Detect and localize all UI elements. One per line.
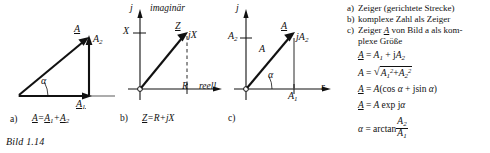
label-imag-component-b: jX — [188, 30, 197, 40]
legend-text-c-post: von Bild a als kom- — [389, 25, 462, 35]
vector-z-head — [177, 32, 188, 41]
vector-a-shaft — [19, 42, 83, 95]
vector-z-shaft — [141, 38, 182, 88]
item-letter-c: c) — [228, 113, 235, 123]
axis-label-r-c: r — [321, 82, 325, 92]
diagram-c: j r A2 A1 A A jA2 α c) — [228, 0, 344, 153]
legend-letter-a: a) — [347, 3, 358, 13]
axis-tick-label-a2-c: A2 — [228, 31, 238, 43]
equation-b: Z=R+jX — [142, 113, 174, 123]
axis-label-j-b: j — [130, 3, 133, 13]
formula-exponential: A = A exp jα — [358, 100, 405, 110]
radical-sign: √ — [374, 65, 380, 77]
label-magnitude-a-c: A — [259, 44, 265, 54]
diagram-a-graphic — [0, 0, 122, 110]
label-imag-component-c: jA2 — [296, 32, 308, 44]
fraction-a2-over-a1: A2A1 — [396, 117, 407, 140]
axis-name-reell-b: reell — [199, 82, 216, 92]
label-component-a1: A1 — [76, 99, 86, 111]
label-vector-z: Z — [175, 21, 181, 31]
diagram-c-graphic — [228, 0, 344, 110]
label-angle-alpha-c: α — [268, 70, 273, 80]
axis-name-imaginaer-b: imaginär — [150, 4, 185, 14]
label-angle-alpha-a: α — [41, 76, 46, 86]
axis-tick-label-x-b: X — [123, 26, 129, 36]
legend-text-a: Zeiger (gerichtete Strecke) — [358, 3, 454, 13]
formula-angle: α = arctanA2A1 — [358, 117, 408, 140]
legend-text-c-pre: Zeiger — [358, 25, 384, 35]
label-vector-a-c: A — [281, 21, 287, 31]
axis-tick-label-a1-c: A1 — [288, 91, 298, 103]
label-vector-a: A — [74, 24, 80, 34]
figure-root: A A2 A1 α a) A=A1+A2 — [0, 0, 490, 153]
axis-label-j-c: j — [236, 3, 239, 13]
formula-trigonometric: A = A(cos α + jsin α) — [358, 84, 437, 94]
diagram-b-graphic — [118, 0, 230, 110]
sqrt-expression: √ A12+A22 — [374, 66, 412, 80]
vector-ac-shaft — [247, 38, 289, 88]
formula-rectangular: A = A1 + jA2 — [358, 50, 405, 62]
legend-item-c: c)Zeiger A von Bild a als kom- — [347, 25, 462, 35]
vector-ac-head — [284, 32, 295, 41]
legend-letter-c: c) — [347, 25, 358, 35]
axis-imaginary-arrowhead-b — [137, 9, 142, 18]
item-letter-a: a) — [10, 114, 17, 124]
legend-item-b: b)komplexe Zahl als Zeiger — [347, 14, 450, 24]
axis-j-arrowhead-c — [243, 9, 248, 18]
legend-text-b: komplexe Zahl als Zeiger — [358, 14, 450, 24]
item-letter-b: b) — [120, 113, 128, 123]
legend-column: a)Zeiger (gerichtete Strecke) b)komplexe… — [345, 0, 490, 153]
legend-item-c-line2: plexe Größe — [358, 36, 402, 46]
legend-item-a: a)Zeiger (gerichtete Strecke) — [347, 3, 454, 13]
label-component-a2: A2 — [93, 34, 103, 46]
equation-a: A=A1+A2 — [32, 113, 69, 125]
diagram-a: A A2 A1 α a) A=A1+A2 — [0, 0, 122, 153]
figure-caption: Bild 1.14 — [6, 136, 44, 147]
axis-tick-label-r-b: R — [182, 82, 188, 92]
legend-letter-b: b) — [347, 14, 358, 24]
diagram-b: j X imaginär R reell Z jX b) Z=R+jX — [118, 0, 230, 153]
formula-magnitude: A = √ A12+A22 — [358, 66, 412, 80]
